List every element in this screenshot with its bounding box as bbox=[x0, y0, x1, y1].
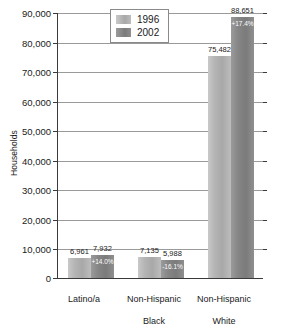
ytick-label-90000: 90,000 bbox=[22, 8, 51, 19]
ytick-label-0: 0 bbox=[46, 273, 51, 284]
ytick-right-70000 bbox=[263, 72, 267, 73]
x-label-latino-text: Latino/a bbox=[68, 294, 100, 304]
ytick-90000 bbox=[53, 13, 57, 14]
x-label-white-line2: White bbox=[212, 316, 235, 326]
bar-value-black-1996: 7,135 bbox=[140, 246, 159, 255]
bar-groups: 6,961 7,932 +14.0% 7,135 5,988 -16.1% bbox=[58, 13, 263, 278]
ytick-right-10000 bbox=[263, 249, 267, 250]
x-label-non-hispanic-black: Non-Hispanic Black bbox=[119, 283, 189, 327]
bar-value-black-2002: 5,988 bbox=[163, 249, 182, 258]
ytick-80000 bbox=[53, 43, 57, 44]
x-label-black-line2: Black bbox=[143, 316, 165, 326]
bar-change-black: -16.1% bbox=[162, 263, 183, 270]
bar-group-latino: 6,961 7,932 +14.0% bbox=[68, 13, 114, 278]
ytick-0 bbox=[53, 278, 57, 279]
ytick-label-70000: 70,000 bbox=[22, 67, 51, 78]
ytick-70000 bbox=[53, 72, 57, 73]
legend-item-2002[interactable]: 2002 bbox=[116, 26, 159, 39]
ytick-label-40000: 40,000 bbox=[22, 155, 51, 166]
legend-swatch-icon-2002 bbox=[116, 28, 131, 37]
bar-value-latino-1996: 6,961 bbox=[70, 247, 89, 256]
legend-label-1996: 1996 bbox=[137, 14, 159, 25]
ytick-60000 bbox=[53, 102, 57, 103]
bar-value-white-1996: 75,482 bbox=[208, 45, 231, 54]
ytick-50000 bbox=[53, 131, 57, 132]
bar-change-latino: +14.0% bbox=[91, 258, 113, 265]
legend-item-1996[interactable]: 1996 bbox=[116, 13, 159, 26]
x-label-latino: Latino/a bbox=[49, 283, 119, 305]
ytick-label-60000: 60,000 bbox=[22, 96, 51, 107]
bar-white-2002[interactable]: 88,651 +17.4% bbox=[231, 17, 254, 278]
x-label-white-line1: Non-Hispanic bbox=[197, 294, 251, 304]
ytick-label-10000: 10,000 bbox=[22, 244, 51, 255]
y-axis-title: Households bbox=[9, 113, 19, 193]
ytick-right-40000 bbox=[263, 161, 267, 162]
plot-area: 90,000 80,000 70,000 60,000 50,000 40,00… bbox=[57, 13, 263, 279]
ytick-right-80000 bbox=[263, 43, 267, 44]
x-label-black-line1: Non-Hispanic bbox=[127, 294, 181, 304]
bar-white-1996[interactable]: 75,482 bbox=[208, 56, 231, 278]
ytick-right-60000 bbox=[263, 102, 267, 103]
ytick-label-20000: 20,000 bbox=[22, 214, 51, 225]
ytick-right-20000 bbox=[263, 220, 267, 221]
bar-group-non-hispanic-black: 7,135 5,988 -16.1% bbox=[138, 13, 184, 278]
x-label-non-hispanic-white: Non-Hispanic White bbox=[189, 283, 259, 327]
bar-latino-2002[interactable]: 7,932 +14.0% bbox=[91, 255, 114, 278]
chart-legend: 1996 2002 bbox=[110, 9, 169, 43]
bar-black-1996[interactable]: 7,135 bbox=[138, 257, 161, 278]
ytick-40000 bbox=[53, 161, 57, 162]
x-axis-line bbox=[57, 278, 263, 279]
bar-latino-1996[interactable]: 6,961 bbox=[68, 258, 91, 279]
bar-value-white-2002: 88,651 bbox=[231, 6, 254, 15]
ytick-right-50000 bbox=[263, 131, 267, 132]
bar-value-latino-2002: 7,932 bbox=[93, 244, 112, 253]
legend-swatch-icon-1996 bbox=[116, 15, 131, 24]
ytick-label-50000: 50,000 bbox=[22, 126, 51, 137]
ytick-right-30000 bbox=[263, 190, 267, 191]
ytick-10000 bbox=[53, 249, 57, 250]
bar-group-non-hispanic-white: 75,482 88,651 +17.4% bbox=[208, 13, 254, 278]
bar-black-2002[interactable]: 5,988 -16.1% bbox=[161, 260, 184, 278]
legend-label-2002: 2002 bbox=[137, 27, 159, 38]
x-axis-labels: Latino/a Non-Hispanic Black Non-Hispanic… bbox=[58, 283, 263, 319]
ytick-label-30000: 30,000 bbox=[22, 185, 51, 196]
ytick-30000 bbox=[53, 190, 57, 191]
ytick-20000 bbox=[53, 220, 57, 221]
ytick-right-90000 bbox=[263, 13, 267, 14]
bar-change-white: +17.4% bbox=[231, 20, 253, 27]
ytick-label-80000: 80,000 bbox=[22, 37, 51, 48]
